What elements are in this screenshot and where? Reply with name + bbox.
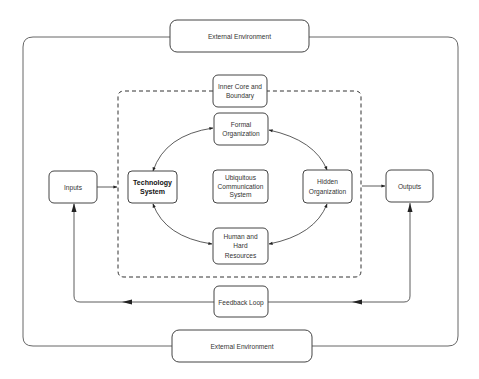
inputs-label: Inputs <box>64 184 83 192</box>
feedback-loop-line-right <box>268 203 410 302</box>
formal-organization-label-line2: Organization <box>222 130 260 138</box>
hidden-human-edge <box>269 204 327 244</box>
inputs-arrow-head <box>72 203 77 212</box>
outputs-label: Outputs <box>398 183 422 191</box>
human-label-line2: Hard <box>233 242 248 249</box>
feedback-loop-label: Feedback Loop <box>218 299 264 307</box>
human-tech-edge <box>153 204 212 244</box>
feedback-loop-arrow-right <box>352 300 362 305</box>
formal-hidden-edge <box>269 130 327 170</box>
inputs-node[interactable]: Inputs <box>49 171 97 203</box>
feedback-loop-node[interactable]: Feedback Loop <box>214 286 268 317</box>
external-environment-top-node[interactable]: External Environment <box>170 20 309 52</box>
inner-core-node[interactable]: Inner Core and Boundary <box>213 75 267 107</box>
outputs-node[interactable]: Outputs <box>386 170 433 202</box>
human-hard-resources-node[interactable]: Human and Hard Resources <box>213 228 268 264</box>
outputs-arrow-head <box>408 203 413 212</box>
technology-system-node[interactable]: Technology System <box>128 171 177 203</box>
tech-formal-edge <box>153 128 213 171</box>
technology-label-line1: Technology <box>133 179 172 187</box>
human-label-line1: Human and <box>223 233 257 240</box>
feedback-loop-arrow-left <box>122 300 132 305</box>
inner-core-label-line1: Inner Core and <box>218 83 262 90</box>
external-environment-bottom-label: External Environment <box>210 343 273 350</box>
hidden-label-line1: Hidden <box>317 178 338 185</box>
formal-organization-label-line1: Formal <box>231 121 252 128</box>
external-environment-bottom-node[interactable]: External Environment <box>172 330 312 362</box>
external-environment-top-label: External Environment <box>208 33 271 40</box>
ubiquitous-label-line2: Communication <box>218 183 264 190</box>
ubiquitous-label-line3: System <box>230 191 252 199</box>
hidden-organization-node[interactable]: Hidden Organization <box>303 170 352 203</box>
inner-core-label-line2: Boundary <box>226 92 255 100</box>
ubiquitous-label-line1: Ubiquitous <box>225 174 257 182</box>
ubiquitous-communication-node[interactable]: Ubiquitous Communication System <box>213 170 268 203</box>
feedback-loop-line-left <box>74 204 214 302</box>
hidden-label-line2: Organization <box>309 188 347 196</box>
organizational-systems-diagram: External Environment Inner Core and Boun… <box>0 0 479 379</box>
technology-label-line2: System <box>140 188 165 196</box>
human-label-line3: Resources <box>225 252 257 259</box>
formal-organization-node[interactable]: Formal Organization <box>214 113 268 145</box>
